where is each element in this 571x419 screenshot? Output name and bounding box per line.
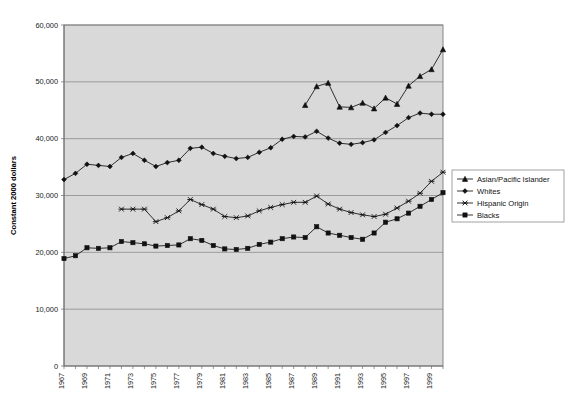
series-3-marker (303, 235, 307, 239)
series-3-marker (200, 238, 204, 242)
series-3-marker (73, 254, 77, 258)
x-tick-label-1967: 1967 (57, 373, 66, 389)
series-3-marker (441, 191, 445, 195)
y-tick-label-30000: 30,000 (35, 191, 58, 200)
y-tick-label-20000: 20,000 (35, 248, 58, 257)
x-tick-label-1997: 1997 (402, 373, 411, 389)
y-tick-label-40000: 40,000 (35, 134, 58, 143)
series-3-marker (326, 231, 330, 235)
series-3-marker (406, 211, 410, 215)
series-3-marker (223, 247, 227, 251)
series-3-marker (85, 246, 89, 250)
series-3-marker (349, 235, 353, 239)
x-tick-label-1989: 1989 (310, 373, 319, 389)
y-tick-label-10000: 10,000 (35, 305, 58, 314)
legend-label-3: Blacks (477, 211, 500, 220)
series-3-marker (119, 239, 123, 243)
x-tick-label-1983: 1983 (241, 373, 250, 389)
x-tick-label-1971: 1971 (103, 373, 112, 389)
income-by-race-line-chart: 010,00020,00030,00040,00050,00060,000196… (0, 0, 571, 419)
y-axis-title: Constant 2000 dollars (9, 156, 18, 235)
series-3-marker (154, 244, 158, 248)
series-3-marker (292, 235, 296, 239)
series-3-marker (142, 242, 146, 246)
series-3-marker (383, 220, 387, 224)
series-3-marker (280, 237, 284, 241)
x-tick-label-1975: 1975 (149, 373, 158, 389)
series-3-marker (429, 197, 433, 201)
legend-label-2: Hispanic Origin (477, 199, 529, 208)
y-tick-label-60000: 60,000 (35, 21, 58, 30)
y-tick-label-50000: 50,000 (35, 77, 58, 86)
series-3-marker (361, 237, 365, 241)
series-3-marker (315, 225, 319, 229)
series-3-marker (211, 243, 215, 247)
x-tick-label-1987: 1987 (287, 373, 296, 389)
series-3-marker (131, 241, 135, 245)
series-3-marker (108, 246, 112, 250)
series-3-marker (395, 217, 399, 221)
x-tick-label-1973: 1973 (126, 373, 135, 389)
legend-label-1: Whites (477, 187, 500, 196)
series-3-marker (257, 242, 261, 246)
series-3-marker (188, 237, 192, 241)
series-3-marker (338, 233, 342, 237)
x-tick-label-1993: 1993 (356, 373, 365, 389)
series-3-marker (96, 246, 100, 250)
x-tick-label-1979: 1979 (195, 373, 204, 389)
series-3-marker (234, 247, 238, 251)
legend-marker-square (463, 213, 467, 217)
series-3-marker (246, 246, 250, 250)
x-tick-label-1981: 1981 (218, 373, 227, 389)
series-3-marker (165, 243, 169, 247)
y-tick-label-0: 0 (54, 362, 58, 371)
x-tick-label-1995: 1995 (379, 373, 388, 389)
series-3-marker (177, 243, 181, 247)
legend-label-0: Asian/Pacific Islander (477, 175, 550, 184)
x-tick-label-1985: 1985 (264, 373, 273, 389)
series-3-marker (418, 204, 422, 208)
x-tick-label-1977: 1977 (172, 373, 181, 389)
x-tick-label-1999: 1999 (425, 373, 434, 389)
x-tick-label-1991: 1991 (333, 373, 342, 389)
series-3-marker (62, 256, 66, 260)
chart-canvas: 010,00020,00030,00040,00050,00060,000196… (0, 0, 571, 419)
x-tick-label-1969: 1969 (80, 373, 89, 389)
series-3-marker (372, 231, 376, 235)
series-3-marker (269, 240, 273, 244)
